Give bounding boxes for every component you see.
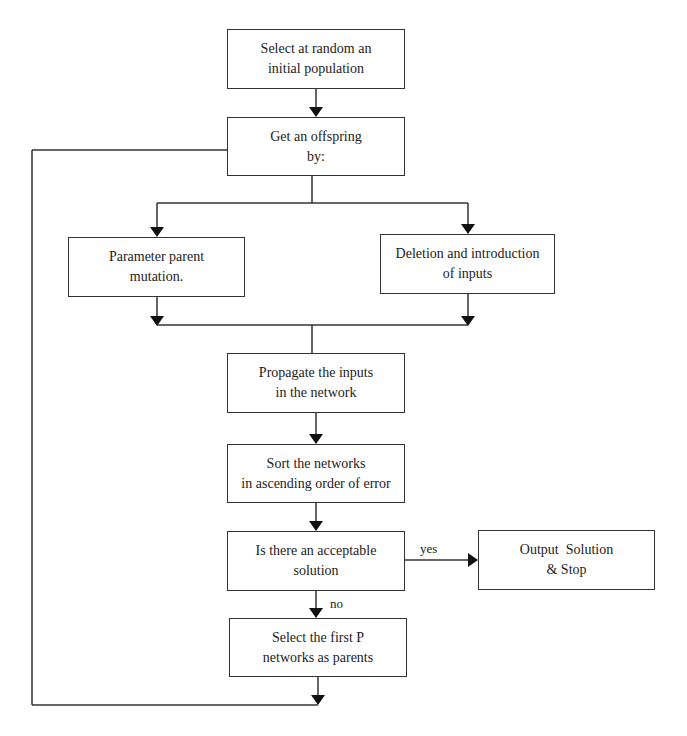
node-output: Output Solution & Stop (478, 530, 655, 590)
node-select-line1: Select the first P (272, 628, 364, 648)
node-init-line2: initial population (268, 59, 364, 79)
edge-label-no: no (330, 596, 343, 612)
node-init-line1: Select at random an (261, 39, 372, 59)
node-propagate-line2: in the network (276, 383, 357, 403)
edge-label-yes: yes (420, 541, 437, 557)
node-output-line1: Output Solution (520, 540, 613, 560)
node-offspring-line2: by: (307, 147, 325, 167)
node-propagate: Propagate the inputs in the network (227, 353, 405, 413)
node-decision-line2: solution (293, 561, 338, 581)
node-deletion: Deletion and introduction of inputs (380, 234, 555, 294)
node-select: Select the first P networks as parents (229, 618, 407, 677)
node-decision-line1: Is there an acceptable (256, 541, 377, 561)
node-deletion-line2: of inputs (443, 264, 492, 284)
node-mutation-line2: mutation. (130, 267, 183, 287)
node-output-line2: & Stop (546, 560, 586, 580)
node-sort-line2: in ascending order of error (241, 474, 390, 494)
node-offspring: Get an offspring by: (227, 117, 405, 176)
node-propagate-line1: Propagate the inputs (259, 363, 373, 383)
node-decision: Is there an acceptable solution (227, 531, 405, 591)
node-sort: Sort the networks in ascending order of … (227, 444, 405, 503)
node-sort-line1: Sort the networks (267, 454, 366, 474)
node-select-line2: networks as parents (263, 648, 373, 668)
node-init: Select at random an initial population (227, 29, 405, 89)
node-mutation-line1: Parameter parent (109, 247, 204, 267)
node-offspring-line1: Get an offspring (270, 127, 362, 147)
node-deletion-line1: Deletion and introduction (396, 244, 540, 264)
node-mutation: Parameter parent mutation. (68, 237, 245, 297)
